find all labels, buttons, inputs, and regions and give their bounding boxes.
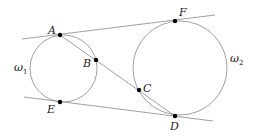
point-D (173, 114, 177, 118)
label-E: E (46, 103, 55, 116)
point-E (58, 100, 62, 104)
label-omega2: ω2 (230, 52, 243, 67)
labels: A B C D E F ω1 ω2 (14, 6, 243, 133)
point-A (58, 33, 62, 37)
label-F: F (178, 6, 187, 19)
label-omega1: ω1 (14, 61, 27, 76)
geometry-diagram: A B C D E F ω1 ω2 (0, 0, 255, 136)
label-D: D (169, 120, 179, 133)
point-B (94, 58, 98, 62)
point-F (173, 19, 177, 23)
circle-omega2 (133, 21, 227, 115)
label-C: C (143, 82, 152, 95)
point-C (137, 88, 141, 92)
label-A: A (47, 24, 56, 37)
label-B: B (82, 57, 91, 70)
